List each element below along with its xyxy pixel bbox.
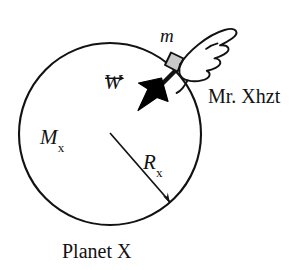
mass-label: m (160, 26, 174, 45)
planet-radius-symbol: R (143, 150, 156, 174)
planet-mass-symbol: M (40, 125, 58, 149)
planet-radius-subscript: x (156, 165, 163, 180)
planet-mass-subscript: x (58, 140, 65, 155)
weight-symbol: W (104, 70, 122, 94)
figure-caption: Planet X (62, 241, 131, 261)
pointing-hand-icon (177, 29, 237, 93)
weight-vector-symbol-wrap: W (104, 72, 122, 93)
person-label: Mr. Xhzt (208, 86, 280, 106)
planet-radius-label: Rx (143, 152, 162, 176)
planet-x-gravity-diagram: m W Mx Rx Mr. Xhzt Planet X (0, 0, 307, 270)
weight-vector-label: W (104, 72, 122, 93)
planet-mass-label: Mx (40, 127, 64, 151)
